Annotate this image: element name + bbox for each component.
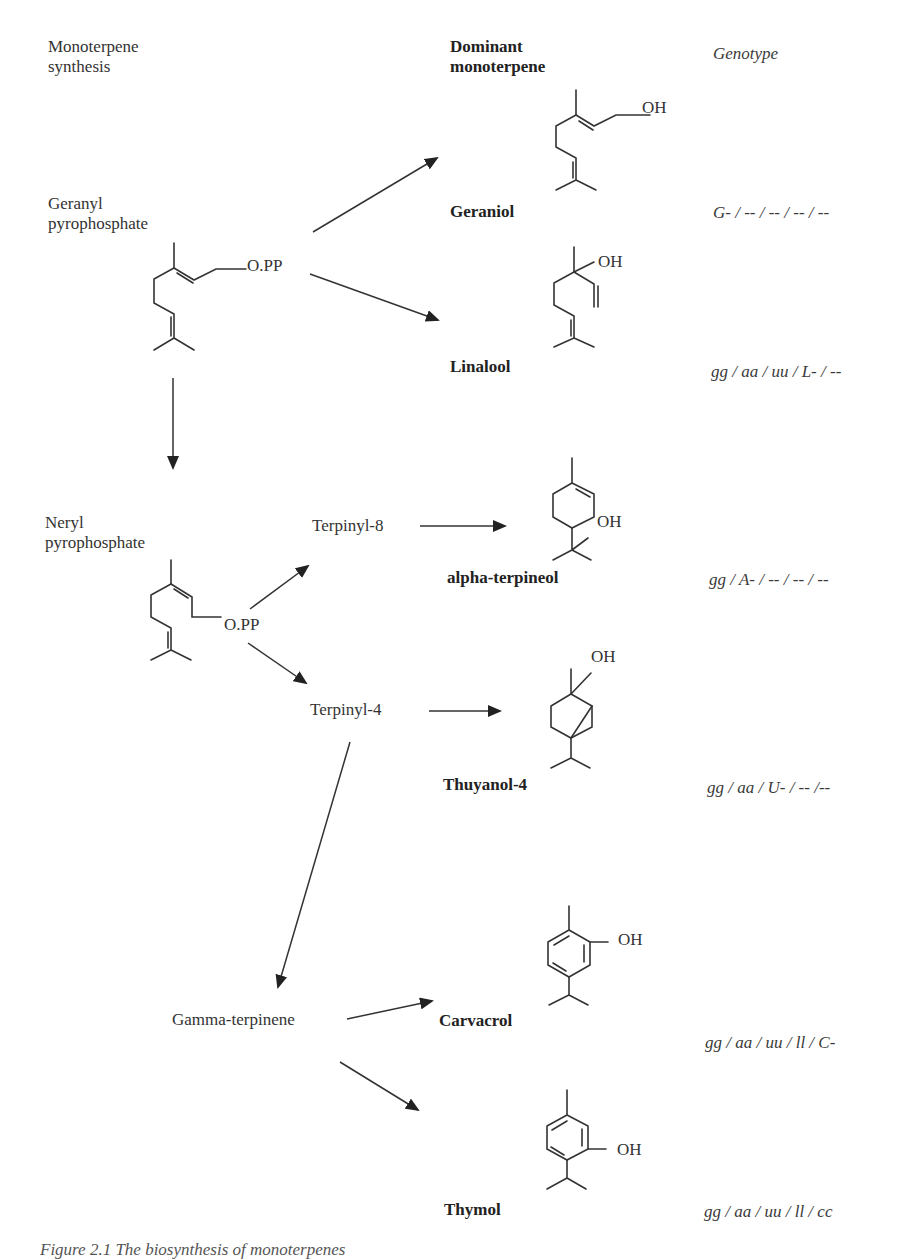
arrow-to-geraniol xyxy=(313,158,437,232)
neryl-line2: pyrophosphate xyxy=(45,533,145,553)
arrow-to-terpinyl4 xyxy=(248,643,306,683)
geraniol-oh-group: OH xyxy=(642,98,667,118)
geranyl-line2: pyrophosphate xyxy=(48,214,148,234)
linalool-oh-group: OH xyxy=(598,252,623,272)
carvacrol-genotype: gg / aa / uu / ll / C- xyxy=(705,1033,835,1053)
neryl-pyrophosphate-structure xyxy=(151,560,221,660)
thuyanol4-genotype: gg / aa / U- / -- /-- xyxy=(707,778,830,798)
alpha-terpineol-structure xyxy=(553,458,594,560)
carvacrol-label: Carvacrol xyxy=(439,1011,512,1031)
neryl-line1: Neryl xyxy=(45,513,145,533)
pathway-header-line1: Monoterpene xyxy=(48,37,139,57)
thymol-structure xyxy=(547,1090,606,1189)
alpha-terpineol-genotype: gg / A- / -- / -- / -- xyxy=(709,570,829,590)
linalool-label: Linalool xyxy=(450,357,510,377)
geranyl-line1: Geranyl xyxy=(48,194,148,214)
carvacrol-structure xyxy=(548,906,608,1005)
thymol-oh-group: OH xyxy=(617,1140,642,1160)
carvacrol-oh-group: OH xyxy=(618,930,643,950)
geranyl-pyrophosphate-structure xyxy=(154,243,246,350)
geranyl-pyrophosphate-label: Geranyl pyrophosphate xyxy=(48,194,148,234)
terpinyl4-label: Terpinyl-4 xyxy=(310,700,382,720)
geraniol-genotype: G- / -- / -- / -- / -- xyxy=(713,203,829,223)
thuyanol4-structure xyxy=(551,669,592,768)
alpha-terpineol-oh-group: OH xyxy=(597,512,622,532)
arrow-to-linalool xyxy=(310,274,438,320)
thymol-label: Thymol xyxy=(444,1200,501,1220)
arrow-to-gamma-terpinene xyxy=(278,742,350,987)
terpinyl8-label: Terpinyl-8 xyxy=(312,516,384,536)
alpha-terpineol-label: alpha-terpineol xyxy=(447,568,558,588)
pathway-header: Monoterpene synthesis xyxy=(48,37,139,77)
geraniol-structure xyxy=(556,90,650,190)
dominant-header-line1: Dominant xyxy=(450,37,545,57)
dominant-header-line2: monoterpene xyxy=(450,57,545,77)
pathway-header-line2: synthesis xyxy=(48,57,139,77)
gamma-terpinene-label: Gamma-terpinene xyxy=(172,1010,295,1030)
arrow-to-terpinyl8 xyxy=(250,566,308,609)
arrow-to-thymol xyxy=(340,1062,418,1110)
neryl-opp-group: O.PP xyxy=(224,615,259,635)
thymol-genotype: gg / aa / uu / ll / cc xyxy=(704,1202,832,1222)
geraniol-label: Geraniol xyxy=(450,202,514,222)
figure-caption: Figure 2.1 The biosynthesis of monoterpe… xyxy=(40,1240,345,1260)
thuyanol4-label: Thuyanol-4 xyxy=(443,775,527,795)
linalool-structure xyxy=(554,247,598,347)
genotype-header: Genotype xyxy=(713,44,778,64)
geranyl-opp-group: O.PP xyxy=(247,256,282,276)
arrow-to-carvacrol xyxy=(347,1001,432,1019)
linalool-genotype: gg / aa / uu / L- / -- xyxy=(711,362,841,382)
neryl-pyrophosphate-label: Neryl pyrophosphate xyxy=(45,513,145,553)
thuyanol4-oh-group: OH xyxy=(591,647,616,667)
dominant-monoterpene-header: Dominant monoterpene xyxy=(450,37,545,77)
